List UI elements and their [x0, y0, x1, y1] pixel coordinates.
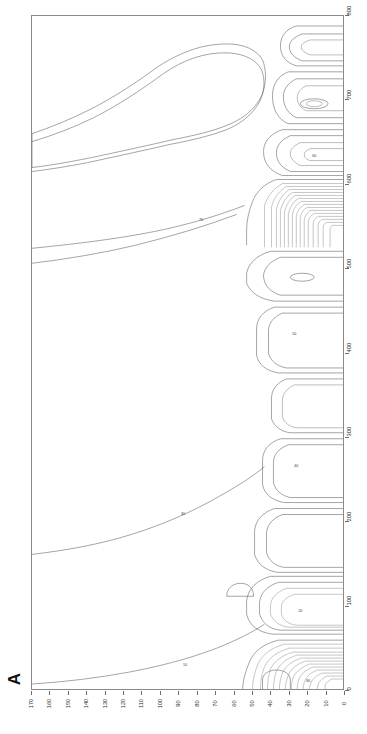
contour-label: 10: [183, 663, 187, 667]
depth-axis-tick-label: 80: [190, 691, 203, 717]
contour-label: 30: [181, 512, 185, 516]
distance-axis-tick-label: 800: [344, 0, 355, 15]
contour-label: 50: [292, 332, 296, 336]
distance-axis-tick-label: 300: [344, 415, 355, 437]
depth-axis-tick-label: 90: [172, 691, 185, 717]
distance-axis-tick: [345, 99, 349, 100]
contour-plot-svg: 60: [32, 16, 343, 689]
distance-axis-tick: [345, 353, 349, 354]
depth-axis-tick-label: 100: [153, 691, 166, 717]
distance-axis-tick-label: 400: [344, 331, 355, 353]
depth-axis-tick-label: 60: [227, 691, 240, 717]
panel-label-a: A: [0, 667, 30, 691]
depth-axis-tick-label: 0: [338, 691, 351, 717]
depth-axis-tick-label: 110: [135, 691, 148, 717]
plot-frame: 60: [31, 15, 344, 690]
depth-axis-tick-label: 160: [43, 691, 56, 717]
contour-lines: 60: [32, 26, 343, 689]
figure-canvas: A 60: [0, 0, 367, 734]
depth-axis-tick-label: 130: [98, 691, 111, 717]
distance-axis-tick-label: 700: [344, 77, 355, 99]
distance-axis-tick: [345, 437, 349, 438]
distance-axis-tick: [345, 184, 349, 185]
contour-label: 20: [298, 609, 302, 613]
distance-axis-tick-label: 200: [344, 499, 355, 521]
contour-label: 60: [312, 154, 316, 158]
depth-axis-tick-label: 150: [61, 691, 74, 717]
depth-axis-tick-label: 140: [80, 691, 93, 717]
depth-axis-tick-label: 50: [245, 691, 258, 717]
distance-axis-tick: [345, 606, 349, 607]
depth-axis-tick-label: 120: [117, 691, 130, 717]
contour-label: 40: [294, 464, 298, 468]
depth-axis-tick-label: 40: [264, 691, 277, 717]
depth-axis-tick-label: 170: [25, 691, 38, 717]
contour-label: 80: [306, 679, 310, 683]
distance-axis-tick-label: 500: [344, 246, 355, 268]
depth-axis-tick-label: 70: [209, 691, 222, 717]
distance-axis: 0100200300400500600700800: [345, 15, 367, 690]
depth-axis-tick-label: 20: [301, 691, 314, 717]
distance-axis-tick-label: 0: [344, 668, 355, 690]
depth-axis-tick-label: 30: [282, 691, 295, 717]
distance-axis-tick-label: 600: [344, 162, 355, 184]
depth-axis-tick-label: 10: [319, 691, 332, 717]
depth-axis: 1701601501401301201101009080706050403020…: [31, 691, 344, 734]
distance-axis-tick-label: 100: [344, 584, 355, 606]
contour-label: 70: [199, 218, 203, 222]
